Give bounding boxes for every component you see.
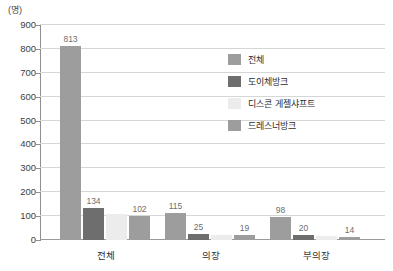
y-axis-tick-mark (36, 168, 40, 169)
legend-swatch-icon (228, 76, 241, 87)
legend-swatch-icon (228, 54, 241, 65)
legend-label: 도이체방크 (248, 75, 288, 88)
bar-value-label: 19 (228, 224, 261, 233)
legend-item[interactable]: 디스콘 게젤샤프트 (228, 92, 378, 114)
y-axis-tick-label: 300 (2, 163, 36, 172)
legend-label: 드레스너방크 (248, 119, 296, 132)
bar (83, 208, 104, 240)
legend-swatch-icon (228, 98, 241, 109)
legend-swatch-icon (228, 120, 241, 131)
y-axis-tick-label: 600 (2, 92, 36, 101)
y-axis-tick-label: 900 (2, 20, 36, 29)
bar (211, 235, 232, 240)
bar-value-label: 14 (333, 226, 366, 235)
bar (293, 235, 314, 240)
bar-value-label: 134 (77, 197, 110, 206)
bar (60, 46, 81, 240)
bar-value-label: 115 (159, 202, 192, 211)
y-axis-tick-label: 500 (2, 116, 36, 125)
y-axis-tick-mark (36, 192, 40, 193)
bar (188, 234, 209, 240)
y-axis-tick-mark (36, 25, 40, 26)
y-axis-tick-labels: 0100200300400500600700800900 (0, 0, 36, 271)
bar-group: 813134102 (60, 25, 152, 240)
x-axis-category-label: 부의장 (250, 248, 382, 262)
y-axis-tick-mark (36, 240, 40, 241)
bar (129, 216, 150, 240)
chart-legend: 전체도이체방크디스콘 게젤샤프트드레스너방크 (228, 48, 378, 136)
legend-item[interactable]: 드레스너방크 (228, 114, 378, 136)
bar-chart: (명) 0100200300400500600700800900 8131341… (0, 0, 393, 271)
y-axis-tick-mark (36, 144, 40, 145)
y-axis-tick-label: 100 (2, 211, 36, 220)
y-axis-tick-mark (36, 73, 40, 74)
y-axis-tick-label: 200 (2, 187, 36, 196)
bar-value-label: 25 (182, 223, 215, 232)
y-axis-tick-label: 800 (2, 44, 36, 53)
bar (106, 214, 127, 240)
bar (316, 236, 337, 240)
y-axis-tick-mark (36, 121, 40, 122)
y-axis-tick-label: 400 (2, 139, 36, 148)
y-axis-tick-mark (36, 216, 40, 217)
bar (234, 235, 255, 240)
y-axis-tick-mark (36, 97, 40, 98)
legend-item[interactable]: 전체 (228, 48, 378, 70)
y-axis-tick-mark (36, 49, 40, 50)
bar-value-label: 102 (123, 205, 156, 214)
legend-item[interactable]: 도이체방크 (228, 70, 378, 92)
legend-label: 전체 (248, 53, 264, 66)
y-axis-tick-label: 0 (2, 235, 36, 244)
bar-value-label: 20 (287, 224, 320, 233)
bar-value-label: 98 (264, 206, 297, 215)
y-axis-tick-label: 700 (2, 68, 36, 77)
legend-label: 디스콘 게젤샤프트 (248, 97, 315, 110)
bar-value-label: 813 (54, 35, 87, 44)
bar (339, 237, 360, 240)
